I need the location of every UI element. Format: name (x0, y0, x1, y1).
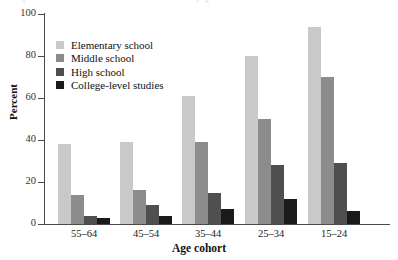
bar (182, 96, 195, 224)
y-tick-mark (38, 224, 44, 225)
legend: Elementary schoolMiddle schoolHigh schoo… (56, 38, 164, 92)
y-axis-line (44, 13, 45, 225)
legend-swatch-icon (56, 68, 64, 76)
legend-swatch-icon (56, 41, 64, 49)
bar-group (308, 14, 364, 224)
legend-item: High school (56, 65, 164, 79)
bar (334, 163, 347, 224)
cropped-title-remnant: g y g (0, 0, 398, 7)
bar (208, 193, 221, 225)
x-tick-label: 45–54 (111, 228, 181, 239)
bar (258, 119, 271, 224)
bar (195, 142, 208, 224)
y-tick-mark (38, 14, 44, 15)
bar (133, 190, 146, 224)
bar-chart: g y g 100806040200 Percent Age cohort 55… (0, 0, 398, 260)
legend-item: Elementary school (56, 38, 164, 52)
bar (245, 56, 258, 224)
legend-label: High school (71, 66, 124, 78)
bar (97, 218, 110, 224)
y-tick-mark (38, 98, 44, 99)
bar (221, 209, 234, 224)
x-axis-title: Age cohort (0, 242, 398, 254)
x-tick-label: 55–64 (49, 228, 119, 239)
bar-group (182, 14, 238, 224)
bar (84, 216, 97, 224)
x-axis-line (44, 224, 390, 225)
bar (120, 142, 133, 224)
bar (347, 211, 360, 224)
bar (71, 195, 84, 224)
y-tick-label: 0 (8, 217, 36, 228)
legend-item: College-level studies (56, 79, 164, 93)
bar (308, 27, 321, 224)
x-tick-label: 25–34 (236, 228, 306, 239)
y-tick-mark (38, 56, 44, 57)
y-axis-title: Percent (7, 59, 19, 145)
legend-label: College-level studies (71, 79, 164, 91)
bar (58, 144, 71, 224)
y-tick-mark (38, 140, 44, 141)
bar (321, 77, 334, 224)
legend-label: Elementary school (71, 39, 153, 51)
bar (284, 199, 297, 224)
bar (271, 165, 284, 224)
bar (146, 205, 159, 224)
y-tick-mark (38, 182, 44, 183)
bar (159, 216, 172, 224)
x-tick-label: 35–44 (173, 228, 243, 239)
legend-swatch-icon (56, 81, 64, 89)
legend-item: Middle school (56, 52, 164, 66)
y-tick-label: 20 (8, 175, 36, 186)
legend-label: Middle school (71, 52, 134, 64)
x-tick-label: 15–24 (299, 228, 369, 239)
remnant-fragment-right: y g (196, 0, 211, 4)
y-tick-label: 100 (8, 7, 36, 18)
legend-swatch-icon (56, 54, 64, 62)
bar-group (245, 14, 301, 224)
